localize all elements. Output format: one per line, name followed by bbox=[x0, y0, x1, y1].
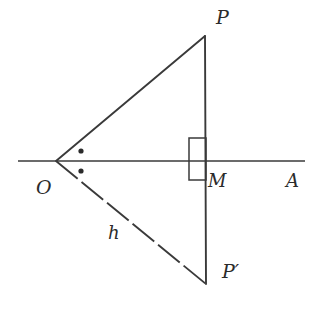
label-point-M: M bbox=[208, 172, 226, 190]
label-point-O: O bbox=[36, 178, 52, 197]
geometry-figure: P O M A h P′ bbox=[0, 0, 323, 309]
label-point-P: P bbox=[216, 8, 229, 27]
label-segment-h: h bbox=[108, 224, 120, 242]
angle-dot-upper-icon bbox=[78, 148, 83, 153]
label-point-P-prime: P′ bbox=[222, 262, 239, 281]
label-point-A: A bbox=[286, 172, 299, 190]
figure-canvas bbox=[0, 0, 323, 309]
ray-OP-prime bbox=[56, 161, 206, 284]
ray-OP bbox=[56, 36, 205, 161]
angle-dot-lower-icon bbox=[78, 168, 83, 173]
right-angle-square-at-M bbox=[189, 138, 206, 180]
